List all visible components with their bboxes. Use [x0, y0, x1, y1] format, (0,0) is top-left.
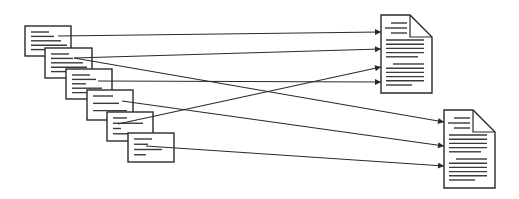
diagram-canvas — [0, 0, 519, 199]
arrow-card-3-to-document-1 — [98, 81, 381, 82]
cards-group — [25, 26, 174, 162]
arrow-card-5-to-document-1 — [118, 67, 381, 124]
arrow-card-6-to-document-2 — [146, 146, 444, 166]
card-to-document-diagram — [0, 0, 519, 199]
documents-group — [381, 15, 495, 188]
arrow-card-2-to-document-1 — [74, 49, 381, 58]
document-1 — [381, 15, 432, 93]
arrow-card-1-to-document-1 — [58, 32, 381, 36]
document-2 — [444, 110, 495, 188]
